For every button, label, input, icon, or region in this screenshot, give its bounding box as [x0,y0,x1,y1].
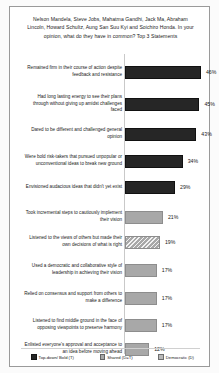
bar-value-label: 19% [165,239,175,245]
bar-value-label: 21% [168,214,178,220]
legend-swatch-icon [100,354,106,360]
chart-bar-row: Used a democratic and collaborative styl… [21,262,200,278]
bar-and-value: 34% [125,155,198,168]
bar-dark [125,66,201,79]
bar-gray [125,292,157,305]
bar-and-value: 17% [125,292,172,305]
bar-value-label: 34% [188,158,198,164]
chart-bar-row: Dared to be different and challenged gen… [21,126,200,142]
legend-item[interactable]: Democratic (D) [158,354,194,360]
bar-dark [125,181,175,194]
bar-value-label: 29% [180,184,190,190]
chart-bar-row: Listened to find middle ground in the fa… [21,317,200,333]
bar-value-label: 12% [154,346,164,352]
bar-and-value: 29% [125,181,190,194]
bar-and-value: 17% [125,319,172,332]
chart-bar-row: Were bold risk-takers that pursued unpop… [21,153,200,169]
bar-category-label: Remained firm in their course of action … [24,65,122,78]
bar-category-label: Listened to the views of others but made… [24,235,122,248]
chart-title: Nelson Mandela, Steve Jobs, Mahatma Gand… [24,15,197,40]
bar-dark [125,128,196,141]
bar-value-label: 46% [206,69,216,75]
legend-swatch-icon [158,354,164,360]
bar-hatch [125,236,160,249]
plot-area: Remained firm in their course of action … [21,54,200,354]
bar-category-label: Relied on consensus and support from oth… [24,291,122,304]
chart-frame: Nelson Mandela, Steve Jobs, Mahatma Gand… [9,6,210,367]
bar-and-value: 45% [125,98,215,111]
legend-label: Top-down/ Bold (T) [39,355,74,360]
chart-bar-row: Relied on consensus and support from oth… [21,290,200,306]
bar-value-label: 17% [162,295,172,301]
bar-value-label: 17% [162,267,172,273]
legend-swatch-icon [31,354,37,360]
chart-bar-row: Took incremental steps to cautiously imp… [21,209,200,225]
chart-page: Nelson Mandela, Steve Jobs, Mahatma Gand… [0,0,219,373]
chart-bar-row: Had long lasting energy to see their pla… [21,96,200,112]
legend-divider [21,348,200,349]
bar-category-label: Took incremental steps to cautiously imp… [24,210,122,223]
bar-value-label: 17% [162,322,172,328]
bar-dark [125,98,199,111]
bar-and-value: 17% [125,264,172,277]
bar-and-value: 46% [125,66,216,79]
legend-item[interactable]: Shared (D=T) [100,354,133,360]
legend-label: Democratic (D) [166,355,194,360]
legend-label: Shared (D=T) [107,355,132,360]
bar-gray [125,319,157,332]
bar-category-label: Were bold risk-takers that pursued unpop… [24,154,122,167]
bar-category-label: Envisioned audacious ideas that didn't y… [24,184,122,191]
bar-category-label: Had long lasting energy to see their pla… [24,94,122,114]
bar-gray [125,264,157,277]
bar-category-label: Used a democratic and collaborative styl… [24,263,122,276]
bar-category-label: Dared to be different and challenged gen… [24,127,122,140]
bar-and-value: 43% [125,128,212,141]
chart-bar-row: Remained firm in their course of action … [21,64,200,80]
bar-value-label: 45% [204,101,214,107]
bar-category-label: Listened to find middle ground in the fa… [24,318,122,331]
bar-dark [125,155,183,168]
bar-and-value: 19% [125,236,175,249]
bar-value-label: 43% [201,131,211,137]
bar-and-value: 21% [125,211,178,224]
bar-gray [125,211,163,224]
chart-bar-row: Envisioned audacious ideas that didn't y… [21,179,200,195]
chart-legend: Top-down/ Bold (T)Shared (D=T)Democratic… [21,354,200,360]
legend-item[interactable]: Top-down/ Bold (T) [31,354,74,360]
chart-bar-row: Listened to the views of others but made… [21,234,200,250]
